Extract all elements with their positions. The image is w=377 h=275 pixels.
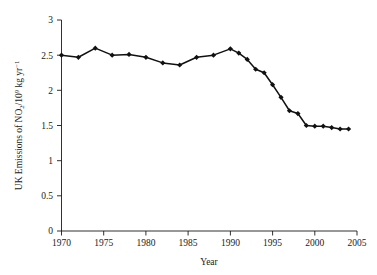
x-axis-ticks [62, 231, 358, 236]
y-axis-title-superscript-2: −1 [13, 61, 20, 68]
data-point [177, 62, 182, 67]
chart-figure: 0 0.5 1 1.5 2 2.5 3 1970 1975 1980 1985 … [0, 0, 377, 275]
data-point [126, 52, 131, 57]
y-tick-label-1.5: 1.5 [41, 121, 53, 131]
x-tick-label-1980: 1980 [136, 238, 155, 248]
x-tick-label-1970: 1970 [52, 238, 71, 248]
data-point [338, 126, 343, 131]
x-tick-label-1975: 1975 [94, 238, 113, 248]
y-tick-label-0.5: 0.5 [41, 191, 53, 201]
y-axis-ticks [57, 20, 62, 231]
x-tick-label-1995: 1995 [263, 238, 282, 248]
line-chart-canvas: 0 0.5 1 1.5 2 2.5 3 1970 1975 1980 1985 … [0, 0, 377, 275]
data-point [110, 53, 115, 58]
data-point [59, 53, 64, 58]
data-point [321, 124, 326, 129]
data-point [329, 125, 334, 130]
x-axis-title: Year [200, 257, 218, 267]
data-point [160, 60, 165, 65]
x-tick-label-1985: 1985 [179, 238, 198, 248]
y-tick-label-3: 3 [48, 15, 53, 25]
y-axis-title-prefix: UK Emissions of NO [14, 109, 24, 191]
svg-text:UK Emissions of NO2/109 kg yr−: UK Emissions of NO2/109 kg yr−1 [13, 61, 26, 190]
data-point-markers [59, 46, 351, 132]
y-tick-label-2: 2 [48, 86, 53, 96]
y-axis-title-mid: /10 [14, 93, 24, 105]
y-axis-title: UK Emissions of NO2/109 kg yr−1 [13, 61, 26, 190]
y-tick-label-1: 1 [48, 156, 53, 166]
x-tick-label-2000: 2000 [305, 238, 324, 248]
data-point [228, 46, 233, 51]
data-series-line [62, 48, 349, 129]
data-point [346, 126, 351, 131]
x-tick-label-2005: 2005 [348, 238, 367, 248]
data-point [211, 53, 216, 58]
y-axis-title-suffix: kg yr [14, 67, 24, 90]
y-tick-label-0: 0 [48, 226, 53, 236]
y-axis-tick-labels: 0 0.5 1 1.5 2 2.5 3 [41, 15, 53, 236]
data-point [143, 55, 148, 60]
x-axis-tick-labels: 1970 1975 1980 1985 1990 1995 2000 2005 [52, 238, 367, 248]
y-tick-label-2.5: 2.5 [41, 51, 53, 61]
data-point [194, 55, 199, 60]
data-point [312, 124, 317, 129]
x-tick-label-1990: 1990 [221, 238, 240, 248]
